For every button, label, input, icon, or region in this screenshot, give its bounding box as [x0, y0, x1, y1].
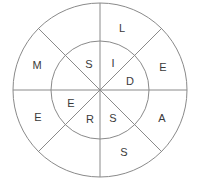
wheel-svg: L E A S E M S I D S R E [0, 0, 200, 188]
outer-letter-lower-right: A [158, 112, 166, 124]
inner-letter-lower-right: S [109, 112, 116, 124]
outer-letter-lower-left: E [34, 111, 41, 123]
word-wheel-figure: L E A S E M S I D S R E [0, 0, 200, 188]
inner-letter-bottom: R [86, 113, 94, 125]
inner-letter-upper-right: D [126, 75, 134, 87]
outer-letter-upper-left: M [32, 59, 41, 71]
inner-letter-left: E [67, 97, 74, 109]
outer-letter-top: L [119, 22, 125, 34]
inner-letter-top: I [111, 57, 114, 69]
outer-letter-upper-right: E [159, 61, 166, 73]
divider-lines [13, 3, 187, 177]
inner-letter-upper-left: S [85, 58, 92, 70]
outer-letter-bottom: S [120, 146, 127, 158]
